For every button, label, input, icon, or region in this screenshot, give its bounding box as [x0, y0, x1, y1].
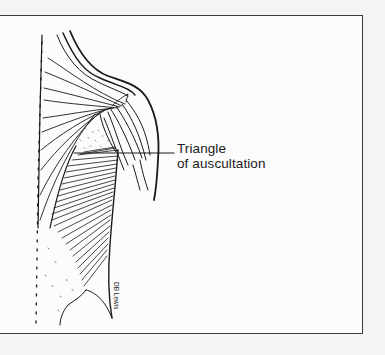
- triangle-of-auscultation-stipple: [80, 128, 113, 151]
- artist-signature: DB Lewis: [113, 282, 120, 310]
- deltoid-fibers: [100, 100, 150, 190]
- label-of-auscultation: of auscultation: [177, 156, 266, 171]
- anatomical-illustration-back-muscles: DB Lewis: [0, 0, 385, 355]
- label-triangle: Triangle: [177, 141, 226, 156]
- latissimus-dorsi-fibers: [52, 147, 118, 286]
- lumbar-stipple: [45, 248, 73, 311]
